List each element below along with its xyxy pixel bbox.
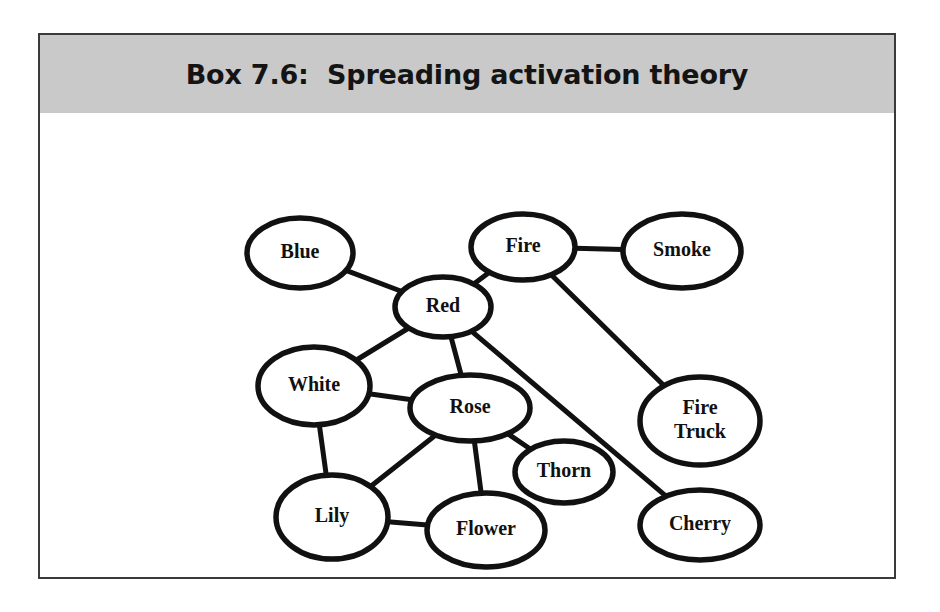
figure-box: Box 7.6: Spreading activation theory Blu…: [38, 33, 896, 579]
edge-white-lily: [319, 425, 326, 475]
box-title: Box 7.6: Spreading activation theory: [186, 61, 749, 88]
node-label-lily: Lily: [315, 504, 349, 527]
edge-blue-red: [346, 270, 402, 291]
node-lily[interactable]: Lily: [276, 475, 388, 559]
node-label-firetruck: Fire: [682, 396, 717, 418]
box-header: Box 7.6: Spreading activation theory: [40, 35, 894, 113]
node-fire[interactable]: Fire: [471, 214, 575, 280]
node-firetruck[interactable]: FireTruck: [640, 377, 760, 465]
node-label-firetruck: Truck: [674, 420, 727, 442]
edge-white-rose: [369, 394, 412, 400]
edge-rose-thorn: [508, 434, 531, 450]
node-thorn[interactable]: Thorn: [515, 441, 613, 503]
node-rose[interactable]: Rose: [410, 375, 530, 441]
node-label-fire: Fire: [505, 234, 540, 256]
node-cherry[interactable]: Cherry: [640, 490, 760, 560]
node-label-rose: Rose: [449, 395, 490, 417]
edge-fire-firetruck: [551, 275, 664, 386]
node-label-white: White: [288, 373, 340, 395]
node-label-red: Red: [426, 294, 460, 316]
node-label-flower: Flower: [456, 517, 516, 539]
node-smoke[interactable]: Smoke: [623, 214, 741, 288]
edge-rose-lily: [371, 435, 436, 486]
node-label-thorn: Thorn: [537, 459, 591, 481]
edge-red-white: [356, 328, 409, 360]
edge-lily-flower: [388, 522, 428, 525]
node-flower[interactable]: Flower: [427, 493, 545, 567]
semantic-network-graph: BlueFireSmokeRedWhiteRoseFireTruckThornL…: [40, 113, 894, 577]
node-red[interactable]: Red: [395, 277, 491, 337]
node-white[interactable]: White: [258, 347, 370, 425]
node-label-smoke: Smoke: [653, 238, 711, 260]
node-label-cherry: Cherry: [669, 512, 731, 535]
node-label-blue: Blue: [281, 240, 320, 262]
node-blue[interactable]: Blue: [247, 218, 353, 288]
diagram-area: BlueFireSmokeRedWhiteRoseFireTruckThornL…: [40, 113, 894, 577]
node-layer: BlueFireSmokeRedWhiteRoseFireTruckThornL…: [247, 214, 760, 567]
edge-rose-flower: [474, 441, 481, 493]
edge-fire-smoke: [575, 248, 623, 249]
figure-page: Box 7.6: Spreading activation theory Blu…: [0, 0, 940, 612]
edge-red-rose: [451, 337, 461, 376]
